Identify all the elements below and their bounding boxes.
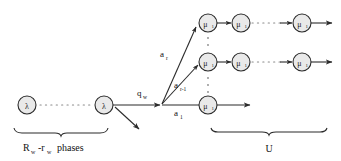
- edge-a-r-subscript: r: [166, 55, 168, 61]
- phase-group-brace-group: R w -r w phases: [14, 128, 108, 155]
- edge-a-1-subscript: 1: [180, 114, 183, 120]
- vertical-dot-5: [207, 44, 209, 46]
- node-mu-mid-1-label: μ: [203, 59, 207, 68]
- vertical-dot-3: [207, 91, 209, 93]
- service-group-brace-group: U: [211, 128, 327, 154]
- node-mu-top-1[interactable]: [199, 14, 217, 32]
- branch-fan-group: a r a r-1 a 1: [160, 27, 199, 120]
- phase-group-label-phases: phases: [57, 142, 84, 153]
- edge-q-w-label: q: [137, 88, 142, 98]
- edge-a-r1-line: [162, 65, 198, 104]
- node-mu-bottom-1[interactable]: [199, 96, 217, 114]
- node-mu-mid-2[interactable]: [232, 53, 250, 71]
- node-mu-mid-3[interactable]: [293, 53, 311, 71]
- service-group-brace: [211, 128, 327, 135]
- node-mu-bottom-1-label: μ: [203, 102, 207, 111]
- edge-down-branch: [115, 107, 139, 129]
- edge-a-r1-subscript: r-1: [180, 86, 187, 92]
- top-row-group: μ 1 μ 1 μ 1: [199, 14, 332, 32]
- bottom-row-group: μ 1: [199, 96, 250, 114]
- diagram-svg: λ λ q w a r a r-1 a 1: [0, 0, 341, 161]
- node-mu-top-2-label: μ: [236, 20, 240, 29]
- node-mu-top-1-label: μ: [203, 20, 207, 29]
- edge-q-w-subscript: w: [143, 94, 147, 100]
- edge-a-r1-label: a: [174, 80, 178, 90]
- edge-a-1-label: a: [174, 108, 178, 118]
- phase-chain-group: λ λ: [18, 96, 113, 114]
- node-lambda-first-label: λ: [25, 102, 29, 111]
- phase-group-label-R: R: [23, 142, 30, 153]
- vertical-dot-2: [207, 84, 209, 86]
- edge-q-w: q w: [113, 88, 160, 105]
- phase-group-label-minus-r: -r: [38, 142, 45, 153]
- node-mu-mid-1[interactable]: [199, 53, 217, 71]
- node-mu-top-2[interactable]: [232, 14, 250, 32]
- edge-a-r-label: a: [160, 49, 164, 59]
- node-mu-top-3-label: μ: [297, 20, 301, 29]
- phase-group-label-r-sub: w: [47, 149, 52, 155]
- node-mu-top-3[interactable]: [293, 14, 311, 32]
- node-mu-mid-2-label: μ: [236, 59, 240, 68]
- service-group-label-U: U: [265, 143, 273, 154]
- middle-row-group: μ 1 μ 1 μ 1: [199, 53, 332, 71]
- vertical-dot-4: [207, 37, 209, 39]
- node-mu-mid-3-label: μ: [297, 59, 301, 68]
- node-lambda-last-label: λ: [102, 102, 106, 111]
- phase-group-label-R-sub: w: [31, 149, 36, 155]
- vertical-dot-1: [207, 77, 209, 79]
- edge-a-r-line: [162, 27, 196, 104]
- phase-group-brace: [14, 128, 108, 136]
- diagram-canvas: λ λ q w a r a r-1 a 1: [0, 0, 341, 161]
